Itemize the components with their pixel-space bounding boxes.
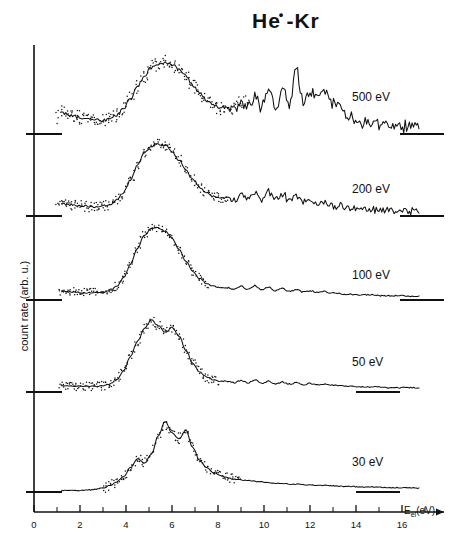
data-point (169, 66, 171, 68)
data-point (143, 332, 145, 334)
data-point (126, 362, 128, 364)
data-point (221, 199, 223, 201)
data-point (114, 484, 116, 486)
data-point (193, 451, 195, 453)
data-point (101, 389, 103, 391)
data-point (125, 365, 127, 367)
data-point (103, 201, 105, 203)
data-point (220, 471, 222, 473)
data-point (198, 94, 200, 96)
data-point (180, 155, 182, 157)
data-point (107, 209, 109, 211)
data-point (104, 125, 106, 127)
data-point (80, 385, 82, 387)
data-point (131, 93, 133, 95)
data-point (146, 232, 148, 234)
data-point (143, 324, 145, 326)
data-point (150, 452, 152, 454)
data-point (63, 291, 65, 293)
data-point (174, 148, 176, 150)
baseline-tick-group (26, 134, 444, 492)
data-point (195, 362, 197, 364)
data-point (121, 198, 123, 200)
data-point (185, 172, 187, 174)
data-point (198, 273, 200, 275)
data-point (168, 330, 170, 332)
data-point (162, 429, 164, 431)
data-point (214, 472, 216, 474)
data-point (198, 366, 200, 368)
data-point (113, 385, 115, 387)
data-point (61, 203, 63, 205)
data-point (188, 432, 190, 434)
data-point (178, 252, 180, 254)
data-point (99, 201, 101, 203)
data-point (75, 390, 77, 392)
data-point (200, 275, 202, 277)
data-point (61, 384, 63, 386)
data-point (225, 478, 227, 480)
data-point (113, 110, 115, 112)
data-point (180, 165, 182, 167)
data-point (61, 115, 63, 117)
data-point (149, 68, 151, 70)
data-point (140, 337, 142, 339)
data-point (134, 351, 136, 353)
x-axis-arrow-icon (436, 509, 444, 516)
data-point (188, 352, 190, 354)
data-point (124, 270, 126, 272)
data-point (117, 482, 119, 484)
data-point (108, 122, 110, 124)
data-point (165, 230, 167, 232)
data-point (63, 201, 65, 203)
data-point (68, 290, 70, 292)
data-point (211, 468, 213, 470)
data-point (90, 383, 92, 385)
data-point (166, 427, 168, 429)
data-point (84, 288, 86, 290)
data-point (167, 64, 169, 66)
data-point (152, 444, 154, 446)
data-point (85, 201, 87, 203)
data-point (146, 323, 148, 325)
data-point (188, 72, 190, 74)
data-point (89, 294, 91, 296)
data-point (133, 170, 135, 172)
data-point (191, 358, 193, 360)
data-point (91, 209, 93, 211)
data-point (83, 112, 85, 114)
data-point (134, 341, 136, 343)
data-point (133, 253, 135, 255)
data-point (100, 292, 102, 294)
data-point (186, 79, 188, 81)
data-point (165, 55, 167, 57)
data-point (243, 96, 245, 98)
data-point (147, 327, 149, 329)
data-point (184, 171, 186, 173)
data-point (77, 294, 79, 296)
data-point (110, 484, 112, 486)
data-point (170, 147, 172, 149)
data-point (200, 458, 202, 460)
data-point (135, 84, 137, 86)
data-point (97, 291, 99, 293)
data-point (121, 478, 123, 480)
data-point (93, 386, 95, 388)
data-point (147, 72, 149, 74)
data-point (90, 202, 92, 204)
data-point (126, 477, 128, 479)
data-point (194, 92, 196, 94)
data-point (233, 482, 235, 484)
x-tick-label-8: 8 (215, 519, 220, 530)
data-point (148, 147, 150, 149)
data-point (222, 475, 224, 477)
data-point (204, 466, 206, 468)
data-point (180, 72, 182, 74)
data-point (69, 294, 71, 296)
data-point (211, 101, 213, 103)
data-point (127, 182, 129, 184)
data-point (208, 190, 210, 192)
data-point (101, 381, 103, 383)
data-point (165, 144, 167, 146)
data-point (99, 382, 101, 384)
